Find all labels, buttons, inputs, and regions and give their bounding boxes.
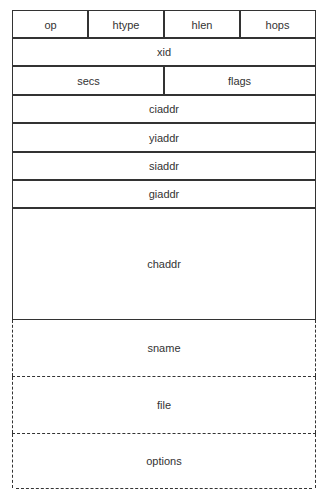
field-sname: sname <box>12 320 316 376</box>
field-htype: htype <box>87 10 165 39</box>
field-yiaddr: yiaddr <box>12 122 316 153</box>
field-label: options <box>146 455 181 467</box>
field-label: siaddr <box>149 160 179 172</box>
field-secs: secs <box>12 65 165 96</box>
field-label: secs <box>77 75 100 87</box>
field-label: sname <box>147 342 180 354</box>
field-ciaddr: ciaddr <box>12 94 316 124</box>
field-label: giaddr <box>149 188 180 200</box>
field-label: chaddr <box>147 258 181 270</box>
field-label: hops <box>266 19 290 31</box>
field-label: xid <box>157 46 171 58</box>
field-label: ciaddr <box>149 103 179 115</box>
field-chaddr: chaddr <box>12 207 316 320</box>
field-label: file <box>157 399 171 411</box>
field-hlen: hlen <box>163 10 241 39</box>
field-label: htype <box>113 19 140 31</box>
field-hops: hops <box>239 10 316 39</box>
field-file: file <box>12 377 316 433</box>
field-giaddr: giaddr <box>12 179 316 209</box>
field-op: op <box>12 10 89 39</box>
field-label: op <box>44 19 56 31</box>
field-xid: xid <box>12 37 316 67</box>
field-label: flags <box>228 75 251 87</box>
field-siaddr: siaddr <box>12 151 316 181</box>
field-flags: flags <box>163 65 316 96</box>
field-options: options <box>12 434 316 488</box>
field-label: hlen <box>192 19 213 31</box>
field-label: yiaddr <box>149 132 179 144</box>
divider-options-bottom <box>16 488 312 489</box>
